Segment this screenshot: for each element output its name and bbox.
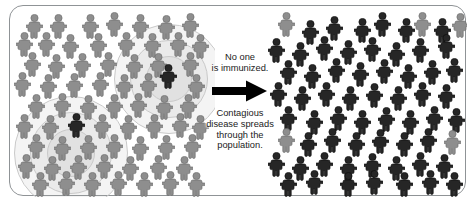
infected-person-icon — [306, 170, 323, 195]
healthy-person-icon — [32, 172, 49, 197]
healthy-person-icon — [444, 130, 461, 155]
infected-person-icon — [420, 128, 437, 153]
infected-person-icon — [280, 172, 297, 197]
infected-person-icon — [374, 12, 391, 37]
infected-person-icon — [160, 64, 177, 89]
healthy-person-icon — [162, 171, 179, 196]
infected-person-icon — [300, 132, 317, 157]
infected-person-icon — [366, 83, 383, 108]
infected-person-icon — [414, 82, 431, 107]
healthy-person-icon — [414, 12, 431, 37]
healthy-person-icon — [188, 172, 205, 197]
infected-person-icon — [376, 59, 393, 84]
infected-person-icon — [396, 172, 413, 197]
after-outbreak-panel — [262, 6, 467, 197]
infected-person-icon — [446, 58, 463, 83]
infected-person-icon — [446, 172, 463, 197]
healthy-person-icon — [84, 172, 101, 197]
infected-person-icon — [340, 172, 357, 197]
infected-person-icon — [324, 128, 341, 153]
healthy-person-icon — [278, 128, 295, 153]
healthy-person-icon — [136, 172, 153, 197]
healthy-person-icon — [278, 12, 295, 37]
caption-disease-spreads: Contagious disease spreads through the p… — [206, 108, 274, 150]
infected-person-icon — [396, 132, 413, 157]
infected-person-icon — [318, 82, 335, 107]
infected-person-icon — [366, 170, 383, 195]
infected-person-icon — [422, 170, 439, 195]
healthy-person-icon — [58, 171, 75, 196]
healthy-person-icon — [110, 171, 127, 196]
illustration-frame: No one is immunized. Contagious disease … — [9, 5, 466, 196]
infected-person-icon — [328, 58, 345, 83]
caption-no-one-immunized: No one is immunized. — [212, 52, 269, 73]
infected-person-icon — [372, 129, 389, 154]
infected-person-icon — [438, 34, 455, 59]
infected-person-icon — [348, 132, 365, 157]
before-outbreak-panel — [10, 6, 215, 197]
center-caption-column: No one is immunized. Contagious disease … — [206, 6, 274, 197]
right-arrow-icon — [212, 79, 268, 103]
infographic-root: No one is immunized. Contagious disease … — [0, 0, 475, 209]
